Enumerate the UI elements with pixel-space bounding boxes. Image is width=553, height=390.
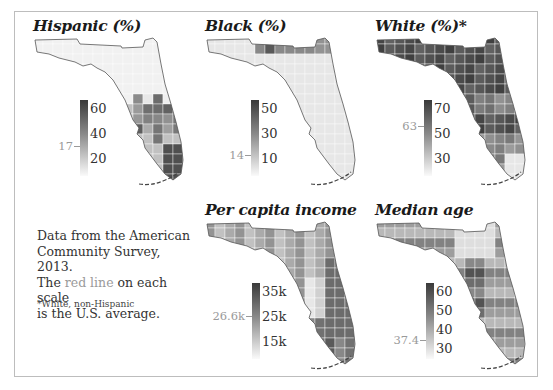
scale-tick-label: 70	[434, 102, 451, 115]
us-average-label: 63	[402, 120, 417, 132]
scale-tick-label: 20	[90, 152, 107, 165]
map-panel-median-age: Median age	[375, 200, 550, 380]
florida-county-map	[33, 34, 188, 194]
color-scale-bar	[424, 100, 432, 176]
scale-tick-label: 50	[434, 127, 451, 140]
scale-tick-label: 10	[261, 152, 278, 165]
color-scale-bar	[426, 283, 434, 359]
scale-tick-label: 60	[436, 285, 453, 298]
footnote: *White, non-Hispanic	[37, 299, 134, 309]
us-average-label: 26.6k	[212, 310, 245, 322]
color-scale-bar	[251, 100, 259, 176]
color-scale-bar	[80, 100, 88, 176]
scale-tick-label: 50	[261, 102, 278, 115]
map-panel-black: Black (%)	[205, 16, 380, 196]
color-scale-bar	[252, 283, 260, 359]
scale-tick-label: 60	[90, 102, 107, 115]
scale-tick-label: 30	[261, 127, 278, 140]
us-average-marker	[245, 155, 251, 156]
scale-tick-label: 40	[436, 323, 453, 336]
us-average-label: 14	[229, 149, 244, 161]
map-panel-white: White (%)*	[375, 16, 550, 196]
scale-tick-label: 25k	[262, 310, 286, 323]
scale-tick-label: 40	[90, 127, 107, 140]
panel-title: Per capita income	[205, 200, 357, 219]
scale-tick-label: 30	[434, 152, 451, 165]
map-panel-per-capita-income: Per capita income	[205, 200, 380, 380]
scale-tick-label: 15k	[262, 335, 286, 348]
us-average-label: 17	[58, 140, 73, 152]
note-line-1: Data from the American	[37, 228, 197, 244]
florida-county-map	[205, 34, 360, 194]
us-average-marker	[420, 340, 426, 341]
us-average-marker	[74, 146, 80, 147]
us-average-label: 37.4	[393, 334, 419, 346]
scale-tick-label: 35k	[262, 285, 286, 298]
note-line-2: Community Survey, 2013.	[37, 244, 197, 275]
panel-title: White (%)*	[375, 16, 466, 35]
panel-title: Hispanic (%)	[33, 16, 141, 35]
florida-county-map	[375, 34, 530, 194]
us-average-marker	[246, 316, 252, 317]
panel-title: Median age	[375, 200, 473, 219]
scale-tick-label: 50	[436, 304, 453, 317]
map-panel-hispanic: Hispanic (%)	[33, 16, 208, 196]
panel-title: Black (%)	[205, 16, 286, 35]
scale-tick-label: 30	[436, 342, 453, 355]
us-average-marker	[418, 126, 424, 127]
red-line-label: red line	[65, 275, 114, 290]
